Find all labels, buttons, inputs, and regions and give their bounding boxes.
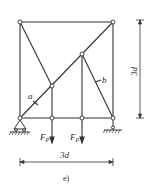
figure-caption: e): [63, 174, 70, 183]
arrowhead-down-icon: [50, 137, 54, 143]
member-b-label: b: [102, 75, 107, 85]
width-dimension-label: 3d: [59, 150, 70, 160]
node-bottom-3: [80, 116, 84, 120]
truss-diagram: FP FP a b 3d 3d e): [0, 0, 152, 195]
pin-support-icon: [9, 120, 30, 135]
height-dimension-label: 3d: [129, 67, 139, 78]
member-a-label: a: [28, 91, 33, 101]
node-bottom-2: [50, 116, 54, 120]
node-low: [50, 84, 54, 88]
diagonal-top-left-to-low-node: [20, 22, 52, 86]
node-top-right: [111, 20, 115, 24]
roller-support-icon: [103, 120, 122, 133]
load-label-1: FP: [39, 132, 50, 143]
member-b: [82, 54, 113, 118]
member-b-tick: [95, 80, 101, 82]
diagonal-bottom-left-to-top-right: [20, 22, 113, 118]
node-mid: [80, 52, 84, 56]
node-bottom-4: [111, 116, 115, 120]
node-top-left: [18, 20, 22, 24]
load-label-2: FP: [69, 132, 80, 143]
arrowhead-down-icon: [80, 137, 84, 143]
